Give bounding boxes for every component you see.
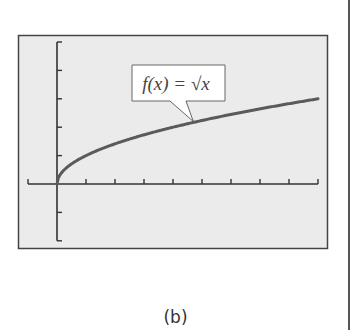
chart: f(x) = √x xyxy=(0,0,351,330)
figure: f(x) = √x (b) xyxy=(0,0,351,330)
figure-caption: (b) xyxy=(0,307,351,327)
page-edge-line xyxy=(348,0,350,330)
function-label: f(x) = √x xyxy=(142,73,210,95)
